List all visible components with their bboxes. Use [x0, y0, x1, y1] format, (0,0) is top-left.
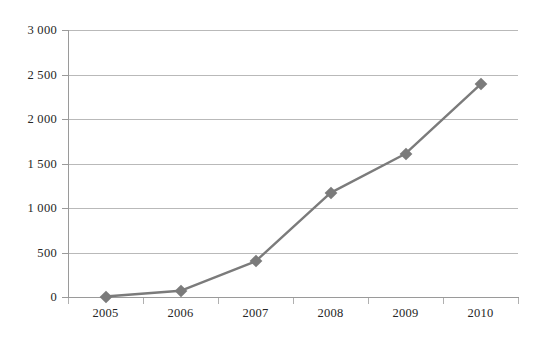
series-line-group [0, 0, 546, 347]
series-line [106, 84, 481, 296]
line-chart: 05001 0001 5002 0002 5003 000 2005200620… [0, 0, 546, 347]
